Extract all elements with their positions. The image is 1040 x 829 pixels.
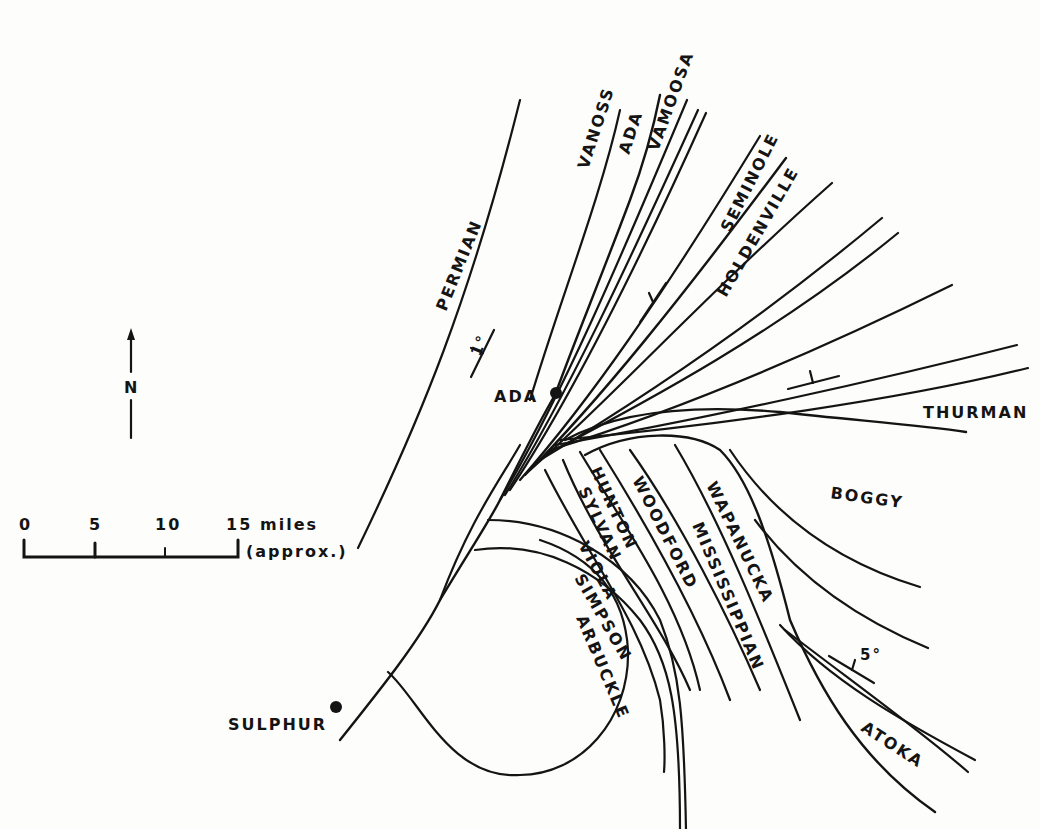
scale-note: (approx.) [246,542,348,561]
label-atoka: ATOKA [858,717,927,771]
dip-symbol-mid [640,283,666,322]
label-town-ada: ADA [494,387,538,406]
label-woodford: WOODFORD [628,473,701,592]
scale-tick-10: 10 [155,515,181,534]
dip-symbol-east [788,371,839,389]
label-dip-1deg: 1° [467,331,492,358]
geologic-map: PERMIAN VANOSS ADA VAMOOSA SEMINOLE HOLD… [0,0,1040,829]
map-linework: PERMIAN VANOSS ADA VAMOOSA SEMINOLE HOLD… [0,0,1040,829]
label-dip-5deg: 5° [860,646,882,664]
label-thurman: THURMAN [923,403,1028,422]
label-boggy: BOGGY [829,483,904,512]
label-vanoss: VANOSS [574,85,618,172]
label-permian: PERMIAN [432,217,486,314]
north-label: N [124,378,139,397]
ada-town-dot [550,387,562,399]
scale-tick-15: 15 [226,515,252,534]
sulphur-town-dot [330,701,342,713]
scale-tick-5: 5 [89,515,102,534]
scale-tick-0: 0 [19,515,32,534]
scale-bar [24,540,238,557]
scale-unit: miles [260,515,318,534]
permian-contact [358,100,520,548]
label-town-sulphur: SULPHUR [228,715,327,734]
